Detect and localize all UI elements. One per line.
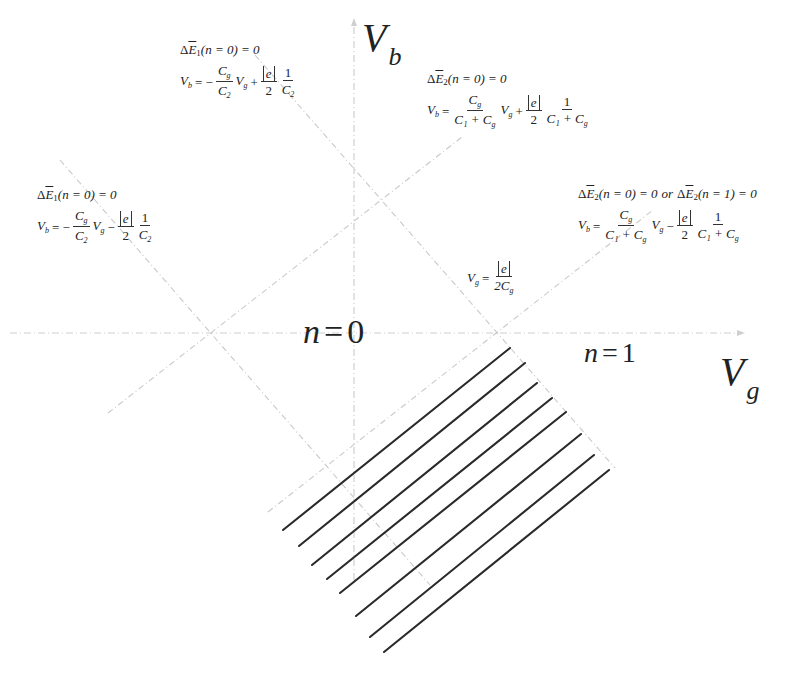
equation-top-left: ΔE1(n = 0) = 0 Vb = − CgC2 Vg + e2 1C2	[180, 43, 296, 100]
vg-axis-arrow-icon	[737, 330, 745, 336]
equation-bottom-left: ΔE1(n = 0) = 0 Vb = − CgC2 Vg − e2 1C2	[37, 188, 153, 245]
equation-formula: Vb = CgC₁ + Cg Vg + e2 1C₁ + Cg	[427, 93, 590, 129]
equation-condition: ΔE1(n = 0) = 0	[180, 43, 296, 58]
region-value: 0	[347, 313, 364, 350]
equation-formula: Vb = CgC₁ + Cg Vg − e2 1C₁ + Cg	[578, 208, 757, 244]
region-label-n0: n=0	[303, 313, 364, 351]
vg-axis-label: Vg	[720, 348, 759, 395]
vb-subscript: b	[388, 42, 401, 71]
hatch-line	[283, 348, 510, 530]
hatch-line	[356, 434, 581, 616]
vb-symbol: V	[362, 15, 386, 60]
hatched-region	[283, 348, 609, 652]
equation-top-right: ΔE2(n = 0) = 0 Vb = CgC₁ + Cg Vg + e2 1C…	[427, 72, 590, 129]
hatch-line	[384, 470, 609, 652]
hatch-line	[312, 383, 537, 565]
equation-gate-threshold: Vg = e2Cg	[467, 262, 515, 295]
region-eq: =	[324, 313, 343, 350]
vg-symbol: V	[720, 349, 744, 394]
hatch-line	[327, 398, 552, 579]
region-var: n	[584, 337, 598, 368]
vb-axis-arrow-icon	[351, 18, 357, 26]
region-eq: =	[602, 337, 618, 368]
hatch-line	[299, 363, 525, 546]
diamond-edge-line	[108, 137, 462, 413]
vg-subscript: g	[746, 376, 759, 405]
equation-condition: ΔE1(n = 0) = 0	[37, 188, 153, 203]
equation-formula: Vb = − CgC2 Vg + e2 1C2	[180, 64, 296, 100]
region-label-n1: n=1	[584, 337, 636, 369]
hatch-line	[370, 455, 594, 637]
equation-formula: Vg = e2Cg	[467, 262, 515, 295]
equation-bottom-right: ΔE2(n = 0) = 0orΔE2(n = 1) = 0 Vb = CgC₁…	[578, 187, 757, 244]
equation-condition: ΔE2(n = 0) = 0orΔE2(n = 1) = 0	[578, 187, 757, 202]
equation-condition: ΔE2(n = 0) = 0	[427, 72, 590, 87]
region-var: n	[303, 313, 320, 350]
equation-formula: Vb = − CgC2 Vg − e2 1C2	[37, 209, 153, 245]
hatch-line	[340, 412, 566, 593]
axes	[10, 18, 745, 580]
vb-axis-label: Vb	[362, 14, 401, 61]
stability-diagram	[0, 0, 807, 684]
region-value: 1	[622, 337, 636, 368]
